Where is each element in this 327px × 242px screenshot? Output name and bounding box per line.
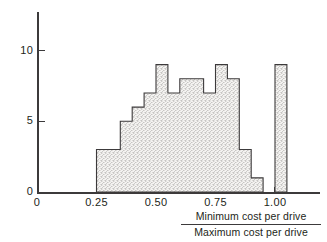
x-tick-label: 0.25 xyxy=(85,196,108,208)
x-tick-label: 0.50 xyxy=(145,196,168,208)
plot-area xyxy=(37,12,320,192)
x-axis-title: Minimum cost per drive Maximum cost per … xyxy=(181,210,321,239)
histogram-figure: 0510 00.250.500.751.00 Minimum cost per … xyxy=(0,0,327,242)
y-tick-label: 5 xyxy=(11,115,33,126)
histogram-bar-group xyxy=(275,65,287,192)
y-tick-label: 10 xyxy=(11,45,33,56)
x-axis-title-denominator: Maximum cost per drive xyxy=(181,226,321,239)
histogram-bars xyxy=(37,12,320,192)
histogram-bar-group xyxy=(97,65,264,192)
x-tick-label: 1.00 xyxy=(264,196,287,208)
y-tick-label: 0 xyxy=(11,186,33,197)
x-tick-label: 0 xyxy=(34,196,40,208)
x-tick-label: 0.75 xyxy=(204,196,227,208)
x-axis-title-numerator: Minimum cost per drive xyxy=(181,210,321,223)
fraction-bar xyxy=(181,224,321,225)
